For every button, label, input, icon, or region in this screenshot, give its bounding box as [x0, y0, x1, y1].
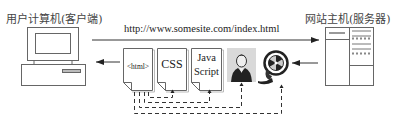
- html-document: <html>: [123, 48, 153, 82]
- javascript-document: Java Script: [191, 48, 222, 82]
- film-reel-icon: [258, 52, 288, 85]
- client-computer-icon: [22, 28, 86, 86]
- javascript-document-label-line2: Script: [191, 65, 222, 78]
- html-document-label: <html>: [123, 62, 153, 71]
- javascript-document-label-line1: Java: [191, 51, 222, 64]
- portrait-image-icon: [227, 48, 256, 82]
- css-document-label: CSS: [157, 57, 187, 72]
- css-document: CSS: [157, 48, 187, 82]
- server-icon: [326, 28, 374, 86]
